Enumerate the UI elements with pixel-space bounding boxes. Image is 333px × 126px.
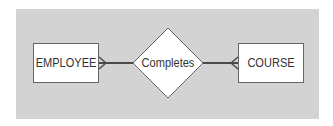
employee-entity-label: EMPLOYEE <box>36 56 97 70</box>
course-entity-label: COURSE <box>241 56 302 70</box>
relationship-label: Completes <box>136 56 200 70</box>
